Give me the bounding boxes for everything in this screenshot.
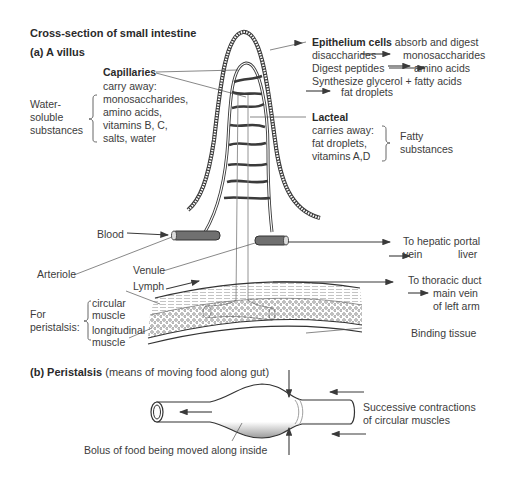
epithelium-label: Epithelium cells absorb and digest <box>312 36 478 49</box>
binding-tissue-label: Binding tissue <box>411 327 476 340</box>
diagram-title: Cross-section of small intestine <box>30 27 196 40</box>
capillaries-text: amino acids, <box>103 106 162 119</box>
longitudinal-muscle-label: muscle <box>92 336 125 349</box>
fatty-substances-label: Fatty <box>400 130 423 143</box>
venule-tube <box>255 236 288 245</box>
longitudinal-muscle-label: longitudinal <box>92 324 145 337</box>
thoracic-label: To thoracic duct <box>408 274 482 287</box>
thoracic-label: of left arm <box>433 300 480 313</box>
part-a-heading: (a) A villus <box>30 46 85 59</box>
epithelium-text: disaccharides <box>312 49 376 62</box>
thoracic-label: main vein <box>433 287 478 300</box>
peristalsis-tube <box>151 384 355 438</box>
epithelium-text: monosaccharides <box>403 49 485 62</box>
muscle-layers <box>148 282 362 344</box>
arteriole-tube <box>172 231 220 240</box>
blood-label: Blood <box>97 228 124 241</box>
lacteal-text: fat droplets, <box>312 137 367 150</box>
lymph-label: Lymph <box>133 280 164 293</box>
capillaries-text: monosaccharides, <box>103 93 188 106</box>
circular-muscle-label: muscle <box>92 309 125 322</box>
capillaries-text: salts, water <box>103 132 156 145</box>
epithelium-text: amino acids <box>414 62 470 75</box>
water-soluble-label: substances <box>30 124 83 137</box>
arteriole-label: Arteriole <box>37 268 76 281</box>
capillary-network <box>205 63 272 232</box>
capillaries-text: carry away: <box>103 80 157 93</box>
contractions-label: Successive contractions <box>363 401 476 414</box>
water-soluble-label: soluble <box>30 111 63 124</box>
capillaries-text: vitamins B, C, <box>103 119 168 132</box>
for-peristalsis-label: For <box>30 308 46 321</box>
lacteal-text: vitamins A,D <box>312 150 370 163</box>
water-soluble-label: Water- <box>30 98 61 111</box>
venule-label: Venule <box>133 264 165 277</box>
hepatic-label: To hepatic portal <box>403 235 480 248</box>
epithelium-text: Digest peptides <box>312 62 384 75</box>
hepatic-label: vein <box>403 248 422 261</box>
lacteal-label: Lacteal <box>312 111 348 124</box>
bolus-label: Bolus of food being moved along inside <box>84 444 267 457</box>
capillaries-label: Capillaries <box>103 66 156 79</box>
hepatic-label: liver <box>458 248 477 261</box>
for-peristalsis-label: peristalsis: <box>30 321 80 334</box>
contractions-label: of circular muscles <box>363 414 450 427</box>
circular-muscle-label: circular <box>92 297 126 310</box>
lacteal-text: carries away: <box>312 124 374 137</box>
epithelium-text: fat droplets <box>341 86 393 99</box>
part-b-heading: (b) Peristalsis (means of moving food al… <box>30 366 269 379</box>
fatty-substances-label: substances <box>400 143 453 156</box>
